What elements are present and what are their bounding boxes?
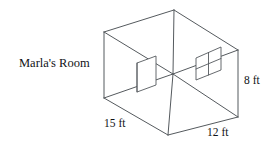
door-icon [137, 56, 156, 92]
label-depth: 12 ft [207, 126, 229, 138]
edge-top-left-rear [104, 10, 174, 32]
room-title: Marla's Room [19, 56, 90, 70]
room-diagram: Marla's Room 15 ft 12 ft 8 ft [0, 0, 279, 149]
edge-floor-right [173, 74, 238, 117]
edge-interior-vertical-lower [168, 74, 173, 135]
edge-interior-vertical-upper [173, 10, 174, 74]
label-height: 8 ft [244, 74, 260, 86]
label-width: 15 ft [104, 117, 126, 129]
edge-top-right-rear [174, 10, 238, 50]
